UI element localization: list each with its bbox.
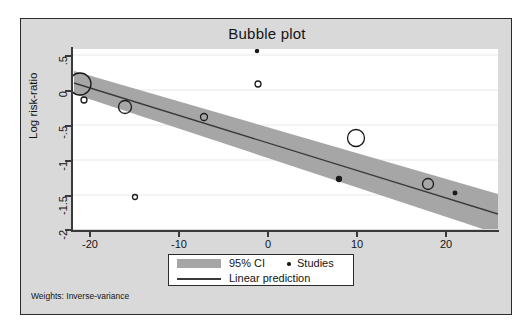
y-axis-title: Log risk-ratio [27,73,39,139]
bubble-marker [348,130,365,147]
bubble-marker [453,191,457,195]
legend-row: 95% CI Studies [169,256,355,271]
bubble-marker [255,49,258,52]
x-tick-label: 20 [440,238,452,250]
bubble-marker [337,177,342,182]
x-tick [445,231,447,237]
y-tick-label: -.5 [57,126,69,139]
x-axis-line [71,230,499,232]
legend-label-ci: 95% CI [229,257,265,269]
x-tick [178,231,180,237]
legend-label-linear-prediction: Linear prediction [229,272,310,284]
x-tick-label: 10 [351,238,363,250]
bubble-plot-screenshot: Bubble plot [0,0,529,331]
legend-label-studies: Studies [297,257,334,269]
footnote-weights: Weights: Inverse-variance [31,291,129,301]
y-tick-label: -1 [57,161,69,171]
y-tick-label: 0 [57,91,69,97]
plot-region [72,49,498,229]
legend-line-swatch [177,278,221,280]
x-tick [267,231,269,237]
page-title: Bubble plot [21,25,513,42]
x-tick-label: -20 [82,238,98,250]
legend-band-swatch [177,259,221,268]
x-tick-label: -10 [171,238,187,250]
x-tick [89,231,91,237]
x-tick-label: 0 [265,238,271,250]
x-tick [356,231,358,237]
y-tick-label: .5 [57,56,69,65]
y-axis-line [71,47,73,231]
graph-region: Bubble plot [20,18,512,315]
legend: 95% CI Studies Linear prediction [168,254,354,286]
linear-prediction-line [74,83,498,214]
y-tick-label: -2 [57,230,69,240]
confidence-interval-band [74,71,498,229]
gridlines [72,55,498,195]
plot-canvas [72,49,498,229]
bubble-marker [81,97,87,103]
y-tick-label: -1.5 [57,196,69,215]
legend-row: Linear prediction [169,271,355,286]
bubble-marker [255,81,261,87]
legend-dot-icon [287,262,291,266]
